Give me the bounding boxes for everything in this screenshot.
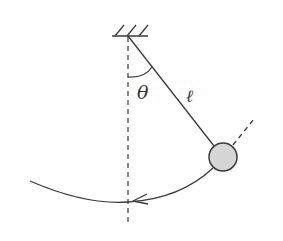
pendulum-bob [209, 143, 237, 171]
motion-arc [30, 168, 213, 202]
arrow-head-icon [133, 194, 148, 204]
ceiling-support [112, 25, 148, 36]
string-extension-dashed [233, 119, 254, 145]
angle-arc [128, 67, 152, 77]
length-label: ℓ [186, 86, 193, 106]
pendulum-diagram: θ ℓ [0, 0, 283, 241]
angle-label: θ [137, 81, 149, 103]
